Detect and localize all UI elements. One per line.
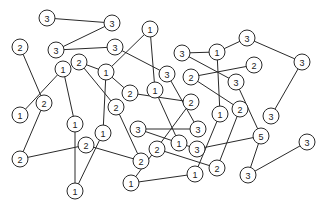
island-label: 2 bbox=[214, 164, 219, 174]
island-node: 3 bbox=[299, 134, 315, 150]
island-label: 3 bbox=[194, 145, 199, 155]
island-node: 2 bbox=[209, 160, 225, 176]
island-label: 3 bbox=[299, 58, 304, 68]
bridge-edge bbox=[47, 18, 112, 23]
island-label: 3 bbox=[195, 125, 200, 135]
island-label: 3 bbox=[304, 138, 309, 148]
island-label: 5 bbox=[258, 132, 263, 142]
island-node: 2 bbox=[108, 99, 124, 115]
island-node: 3 bbox=[239, 30, 255, 46]
island-label: 2 bbox=[188, 73, 193, 83]
island-node: 1 bbox=[55, 61, 71, 77]
island-label: 3 bbox=[268, 112, 273, 122]
island-node: 3 bbox=[130, 121, 146, 137]
island-node: 2 bbox=[78, 137, 94, 153]
island-label: 1 bbox=[17, 111, 22, 121]
island-node: 5 bbox=[253, 128, 269, 144]
island-node: 1 bbox=[147, 82, 163, 98]
island-node: 1 bbox=[98, 64, 114, 80]
island-label: 1 bbox=[60, 65, 65, 75]
bridge-edge bbox=[56, 47, 115, 50]
bridge-edge bbox=[20, 145, 86, 159]
island-label: 1 bbox=[72, 120, 77, 130]
island-node: 3 bbox=[294, 54, 310, 70]
island-label: 2 bbox=[76, 58, 81, 68]
island-label: 3 bbox=[164, 70, 169, 80]
island-label: 1 bbox=[217, 110, 222, 120]
island-node: 3 bbox=[39, 10, 55, 26]
island-label: 2 bbox=[237, 105, 242, 115]
bridge-edge bbox=[271, 62, 302, 116]
island-node: 3 bbox=[174, 45, 190, 61]
island-node: 1 bbox=[187, 166, 203, 182]
bridge-edge bbox=[217, 52, 220, 114]
edges-layer bbox=[20, 18, 307, 191]
island-node: 1 bbox=[123, 175, 139, 191]
island-node: 1 bbox=[142, 21, 158, 37]
island-node: 1 bbox=[12, 107, 28, 123]
island-node: 2 bbox=[12, 151, 28, 167]
island-label: 2 bbox=[138, 157, 143, 167]
island-label: 3 bbox=[179, 49, 184, 59]
island-node: 1 bbox=[209, 44, 225, 60]
island-node: 3 bbox=[48, 42, 64, 58]
island-node: 2 bbox=[183, 69, 199, 85]
island-node: 1 bbox=[67, 183, 83, 199]
island-label: 2 bbox=[154, 145, 159, 155]
island-label: 1 bbox=[72, 187, 77, 197]
bridge-edge bbox=[157, 149, 217, 168]
bridge-edge bbox=[103, 72, 106, 133]
island-label: 3 bbox=[233, 78, 238, 88]
island-label: 2 bbox=[41, 99, 46, 109]
bridge-edge bbox=[150, 29, 155, 90]
island-label: 1 bbox=[147, 25, 152, 35]
island-node: 3 bbox=[228, 74, 244, 90]
bridge-edge bbox=[56, 23, 112, 50]
island-node: 1 bbox=[212, 106, 228, 122]
island-node: 3 bbox=[240, 167, 256, 183]
island-label: 3 bbox=[112, 43, 117, 53]
island-label: 1 bbox=[176, 139, 181, 149]
island-label: 1 bbox=[214, 48, 219, 58]
island-node: 3 bbox=[104, 15, 120, 31]
island-node: 2 bbox=[232, 101, 248, 117]
island-node: 2 bbox=[71, 54, 87, 70]
island-label: 3 bbox=[244, 34, 249, 44]
island-label: 3 bbox=[135, 125, 140, 135]
island-node: 1 bbox=[171, 135, 187, 151]
island-node: 1 bbox=[67, 116, 83, 132]
island-node: 2 bbox=[36, 95, 52, 111]
island-label: 1 bbox=[128, 179, 133, 189]
island-label: 3 bbox=[109, 19, 114, 29]
island-node: 1 bbox=[95, 125, 111, 141]
island-label: 1 bbox=[192, 170, 197, 180]
island-label: 1 bbox=[103, 68, 108, 78]
island-label: 2 bbox=[17, 155, 22, 165]
island-label: 2 bbox=[251, 61, 256, 71]
island-label: 1 bbox=[152, 86, 157, 96]
island-node: 2 bbox=[133, 153, 149, 169]
island-label: 3 bbox=[44, 14, 49, 24]
island-node: 2 bbox=[149, 141, 165, 157]
island-node: 3 bbox=[190, 121, 206, 137]
island-label: 2 bbox=[188, 98, 193, 108]
island-label: 2 bbox=[17, 43, 22, 53]
island-node: 3 bbox=[107, 39, 123, 55]
bridge-edge bbox=[131, 174, 195, 183]
island-node: 3 bbox=[189, 141, 205, 157]
island-label: 2 bbox=[83, 141, 88, 151]
island-label: 3 bbox=[245, 171, 250, 181]
island-node: 2 bbox=[183, 94, 199, 110]
hashi-graph: 3323313133212132312212221311335132232221… bbox=[0, 0, 326, 209]
island-node: 3 bbox=[263, 108, 279, 124]
island-label: 2 bbox=[113, 103, 118, 113]
island-node: 2 bbox=[246, 57, 262, 73]
island-label: 2 bbox=[127, 89, 132, 99]
bridge-edge bbox=[115, 47, 167, 74]
island-node: 2 bbox=[122, 85, 138, 101]
bridge-edge bbox=[20, 47, 44, 103]
island-label: 1 bbox=[100, 129, 105, 139]
island-node: 2 bbox=[12, 39, 28, 55]
island-node: 3 bbox=[159, 66, 175, 82]
bridge-edge bbox=[86, 145, 141, 161]
